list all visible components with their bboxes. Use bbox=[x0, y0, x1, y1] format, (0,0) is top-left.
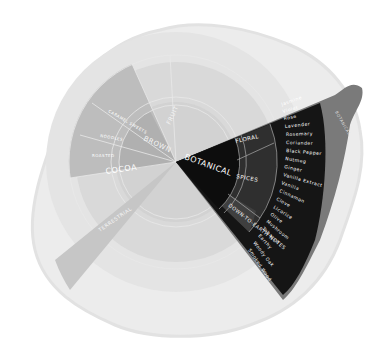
flavor-coriander: Coriander bbox=[286, 140, 313, 146]
label-roasted: ROASTED bbox=[92, 153, 115, 158]
flavor-rosemary: Rosemary bbox=[286, 131, 313, 137]
flavor-wheel: BOTANICAL BROWN FRUIT TERRESTRIAL FLORAL… bbox=[0, 0, 381, 345]
